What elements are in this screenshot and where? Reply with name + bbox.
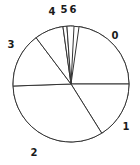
pie-slice-label-5: 5 — [61, 5, 68, 15]
pie-slice-label-1: 1 — [123, 122, 130, 132]
pie-slice-label-4: 4 — [49, 7, 56, 17]
pie-slices-group — [13, 26, 129, 142]
pie-slice-0[interactable] — [71, 27, 129, 84]
pie-slice-label-3: 3 — [8, 40, 15, 50]
pie-chart-figure: 0 1 2 3 4 5 6 — [0, 0, 140, 165]
pie-chart-svg — [0, 0, 140, 165]
pie-slice-label-2: 2 — [31, 148, 38, 158]
pie-slice-label-0: 0 — [112, 31, 119, 41]
pie-slice-label-6: 6 — [70, 5, 77, 15]
